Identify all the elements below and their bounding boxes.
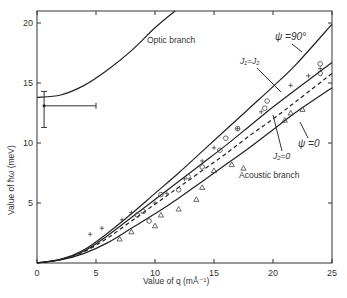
circle-marker — [224, 136, 229, 141]
curve--90- — [37, 24, 332, 263]
y-tick-label: 20 — [23, 18, 33, 28]
x-tick-label: 5 — [93, 268, 98, 278]
y-tick-label: 5 — [28, 198, 33, 208]
label-acoustic-branch: Acoustic branch — [239, 170, 300, 180]
circle-marker — [176, 188, 181, 193]
arrow-psi-0 — [300, 122, 308, 138]
label-optic-branch: Optic branch — [147, 35, 195, 45]
series-curves — [37, 11, 332, 263]
y-tick-label: 15 — [23, 78, 33, 88]
circle-marker — [147, 219, 152, 224]
x-tick-label: 25 — [327, 268, 337, 278]
plus-marker — [153, 201, 157, 205]
triangle-marker — [288, 110, 293, 115]
x-tick-label: 15 — [209, 268, 219, 278]
triangle-marker — [200, 185, 205, 190]
triangle-marker — [211, 168, 216, 173]
plus-marker — [129, 210, 133, 214]
arrow-j2-zero — [273, 115, 282, 151]
plus-marker — [100, 226, 104, 230]
triangle-marker — [176, 206, 181, 211]
circle-marker — [265, 99, 270, 104]
label-psi-90: ψ =90° — [275, 31, 306, 42]
plus-marker — [120, 218, 124, 222]
triangle-marker — [158, 212, 163, 217]
x-tick-label: 0 — [34, 268, 39, 278]
circle-marker — [262, 106, 267, 111]
curve-j1-j2 — [37, 63, 332, 263]
label-j2-zero: J₂=0 — [272, 151, 290, 161]
plot-frame — [37, 11, 332, 263]
label-j1-equals-j2: J₁=J₂ — [239, 56, 260, 66]
y-tick-label: 10 — [23, 138, 33, 148]
plus-marker — [259, 110, 263, 114]
x-axis-label: Value of q (mÅ⁻¹) — [143, 276, 209, 286]
plus-marker — [212, 146, 216, 150]
triangle-marker — [152, 223, 157, 228]
plus-marker — [88, 232, 92, 236]
x-tick-label: 20 — [268, 268, 278, 278]
chart-svg: 05101520255101520 Optic branch ψ =90° J₁… — [0, 0, 347, 298]
curve-optic-branch — [37, 11, 175, 97]
error-point-marker — [43, 104, 46, 107]
axes: 05101520255101520 — [23, 11, 337, 278]
circle-marker — [318, 62, 323, 67]
arrow-j1-equals-j2 — [257, 68, 281, 92]
plus-marker — [289, 83, 293, 87]
label-psi-0: ψ =0 — [298, 138, 320, 149]
circle-marker — [200, 165, 205, 170]
triangle-marker — [194, 197, 199, 202]
arrow-psi-90 — [292, 44, 302, 52]
y-axis-label: Value of ħω (meV) — [6, 145, 16, 215]
circle-marker — [186, 174, 191, 179]
dispersion-chart: 05101520255101520 Optic branch ψ =90° J₁… — [0, 0, 347, 298]
plus-marker — [306, 74, 310, 78]
triangle-marker — [229, 162, 234, 167]
